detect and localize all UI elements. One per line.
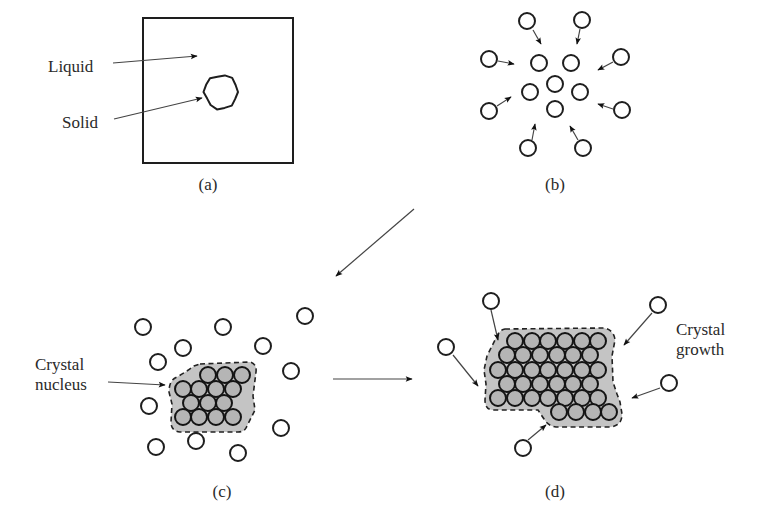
arrow-icon [570, 126, 578, 140]
crystal-atom [568, 404, 584, 420]
label-crystal-growth: growth [676, 340, 725, 359]
crystal-atom [551, 404, 567, 420]
nucleus-atom [191, 409, 207, 425]
label-crystal-growth: Crystal [676, 320, 725, 339]
panel-a: LiquidSolid (a) [48, 18, 293, 194]
arrow-icon [528, 425, 546, 440]
label-solid: Solid [62, 113, 98, 132]
liquid-atom [175, 340, 191, 356]
crystal-atom [565, 347, 581, 363]
arrow-icon [598, 104, 613, 109]
liquid-container-box [143, 18, 293, 163]
panel-b-atoms [481, 12, 630, 156]
clustering-atom [547, 101, 563, 117]
nucleus-atom [234, 367, 250, 383]
liquid-atom [483, 293, 499, 309]
liquid-atom [614, 102, 630, 118]
arrow-icon [624, 313, 652, 345]
liquid-atom [230, 445, 246, 461]
nucleus-atom [175, 409, 191, 425]
arrow-icon [114, 98, 202, 119]
crystal-atom [532, 347, 548, 363]
transition-arrow-icon [336, 209, 414, 276]
liquid-atom [520, 140, 536, 156]
crystal-atom [585, 404, 601, 420]
label-crystal-nucleus: nucleus [35, 375, 87, 394]
liquid-atom [255, 338, 271, 354]
crystal-atom [499, 347, 515, 363]
clustering-atom [531, 55, 547, 71]
liquid-atom [661, 375, 677, 391]
arrow-icon [577, 29, 580, 44]
arrow-icon [532, 124, 535, 140]
liquid-atom [519, 13, 535, 29]
arrow-icon [453, 355, 478, 386]
nucleus-atom [208, 409, 224, 425]
liquid-atom [575, 140, 591, 156]
nucleus-atom [225, 381, 241, 397]
liquid-atom [215, 319, 231, 335]
solid-particle [204, 75, 239, 109]
liquid-atom [650, 297, 666, 313]
liquid-atom [273, 420, 289, 436]
clustering-atom [522, 84, 538, 100]
panel-b-label: (b) [545, 175, 565, 194]
liquid-atom [481, 51, 497, 67]
panel-c-label: (c) [213, 482, 232, 501]
arrow-icon [497, 97, 511, 106]
arrow-icon [598, 62, 613, 70]
nucleus-atom [225, 409, 241, 425]
label-liquid: Liquid [48, 57, 94, 76]
crystal-nucleus-annotation: Crystalnucleus [35, 355, 165, 394]
panel-c: Crystalnucleus (c) [35, 308, 313, 501]
liquid-atom [150, 354, 166, 370]
panel-d: Crystalgrowth (d) [438, 293, 725, 501]
crystal-atom [549, 347, 565, 363]
liquid-atom [438, 339, 454, 355]
panel-b: (b) [481, 12, 630, 194]
arrow-icon [498, 61, 514, 64]
crystal-atom [540, 390, 556, 406]
liquid-atom [297, 308, 313, 324]
liquid-atom [141, 398, 157, 414]
label-crystal-nucleus: Crystal [35, 355, 84, 374]
clustering-atom [572, 84, 588, 100]
crystal-atom [490, 362, 506, 378]
crystal-atom [601, 404, 617, 420]
crystal-atom [515, 347, 531, 363]
panel-a-annotations: LiquidSolid [48, 56, 202, 132]
panel-a-label: (a) [199, 175, 218, 194]
arrow-icon [632, 388, 660, 398]
arrow-icon [113, 56, 197, 63]
clustering-atom [563, 55, 579, 71]
liquid-atom [283, 363, 299, 379]
crystal-growth-annotation: Crystalgrowth [676, 320, 725, 359]
crystal-atom [507, 390, 523, 406]
solidification-diagram: LiquidSolid (a) (b) Crystalnucleus (c) C… [0, 0, 764, 530]
panel-d-label: (d) [545, 482, 565, 501]
crystal-atom [582, 347, 598, 363]
crystal-atom [524, 390, 540, 406]
liquid-atom [613, 49, 629, 65]
arrow-icon [491, 310, 498, 340]
liquid-atom [515, 440, 531, 456]
liquid-atom [148, 439, 164, 455]
liquid-atom [188, 433, 204, 449]
transition-arrows [333, 209, 414, 379]
clustering-atom [547, 76, 563, 92]
liquid-atom [574, 12, 590, 28]
liquid-atom [135, 319, 151, 335]
crystal-atom [490, 390, 506, 406]
arrow-icon [533, 30, 541, 44]
arrow-icon [108, 382, 165, 385]
liquid-atom [481, 103, 497, 119]
